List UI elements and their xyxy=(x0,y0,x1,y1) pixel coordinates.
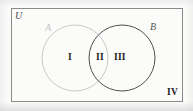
venn-diagram-figure: U A B I II III IV xyxy=(0,0,193,111)
set-a-label: A xyxy=(45,23,51,33)
set-b-label: B xyxy=(150,22,156,32)
region-label-i: I xyxy=(68,53,72,63)
universal-set-label: U xyxy=(15,11,22,21)
region-label-iv: IV xyxy=(167,88,178,98)
region-label-ii: II xyxy=(96,53,104,63)
region-label-iii: III xyxy=(114,53,126,63)
